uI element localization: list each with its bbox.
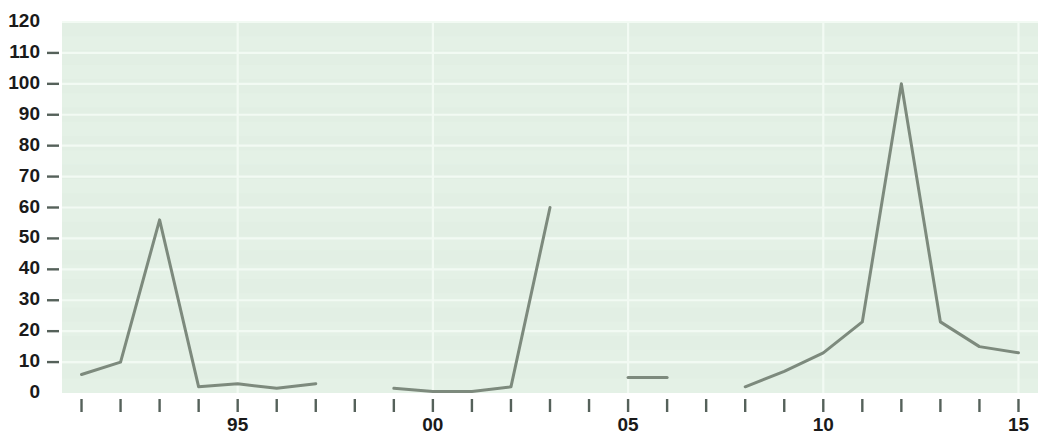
chart-canvas: 0102030405060708090100110120 9500051015 (0, 0, 1038, 440)
y-tick-label: 30 (19, 288, 40, 309)
y-tick-label: 120 (8, 10, 40, 31)
texture-band (62, 93, 1038, 107)
texture-band (62, 265, 1038, 279)
texture-band (62, 279, 1038, 293)
texture-band (62, 250, 1038, 264)
x-tick-label: 00 (422, 414, 443, 435)
y-tick-label: 100 (8, 72, 40, 93)
texture-band (62, 122, 1038, 136)
y-tick-label: 60 (19, 196, 40, 217)
y-axis-group: 0102030405060708090100110120 (8, 10, 59, 402)
y-tick-label: 70 (19, 165, 40, 186)
texture-band (62, 222, 1038, 236)
texture-band (62, 22, 1038, 36)
texture-band (62, 322, 1038, 336)
texture-band (62, 79, 1038, 93)
y-tick-label: 90 (19, 103, 40, 124)
line-chart: 0102030405060708090100110120 9500051015 (0, 0, 1038, 440)
texture-band (62, 179, 1038, 193)
texture-band (62, 36, 1038, 50)
texture-band (62, 364, 1038, 378)
y-tick-label: 10 (19, 350, 40, 371)
texture-band (62, 336, 1038, 350)
y-tick-label: 110 (9, 41, 40, 62)
y-tick-label: 50 (19, 226, 40, 247)
texture-band (62, 193, 1038, 207)
x-tick-label: 10 (813, 414, 834, 435)
y-tick-label: 80 (19, 134, 40, 155)
y-tick-label: 20 (19, 319, 40, 340)
texture-band (62, 65, 1038, 79)
x-axis-group: 9500051015 (82, 399, 1030, 435)
y-tick-label: 40 (19, 257, 40, 278)
x-tick-label: 15 (1008, 414, 1030, 435)
y-tick-label: 0 (29, 381, 40, 402)
x-tick-label: 05 (618, 414, 640, 435)
texture-band (62, 307, 1038, 321)
x-tick-label: 95 (227, 414, 249, 435)
